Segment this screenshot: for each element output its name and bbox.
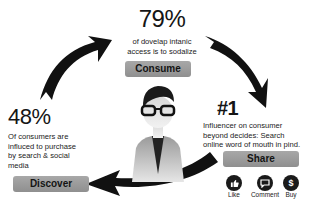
share-description-line: online word of mouth in pind. [203,140,309,150]
discover-description-line: by search & social [8,151,92,161]
share-description-line: beyond decides: Search [203,131,309,141]
consume-description-line: access is to sodalize [125,47,199,57]
share-description: Influencer on consumer beyond decides: S… [203,121,309,150]
comment-icon [257,175,273,191]
consume-button[interactable]: Consume [125,61,191,77]
consume-description-line: of dovelap intanic [125,37,199,47]
comment-label: Comment [250,191,280,198]
thumbs-up-icon [226,175,242,191]
share-stat: #1 [217,98,238,118]
consume-description: of dovelap intanic access is to sodalize [125,37,199,56]
consume-section: 79% [127,7,197,31]
discover-button[interactable]: Discover [13,176,89,192]
buy-label: Buy [280,191,302,198]
discover-description-line: Of consumers are [8,132,92,142]
share-description-line: Influencer on consumer [203,121,309,131]
like-action[interactable]: Like [223,175,245,198]
discover-description-line: media [8,161,92,171]
discover-stat: 48% [8,106,51,128]
arrow-discover-to-consume [40,36,112,100]
consume-stat: 79% [127,7,197,31]
person-illustration [128,82,188,186]
share-button[interactable]: Share [223,151,299,167]
like-label: Like [223,191,245,198]
discover-description: Of consumers are influced to purchase by… [8,132,92,170]
discover-description-line: influced to purchase [8,142,92,152]
buy-action[interactable]: $ Buy [280,175,302,198]
comment-action[interactable]: Comment [250,175,280,198]
dollar-icon: $ [283,175,299,191]
